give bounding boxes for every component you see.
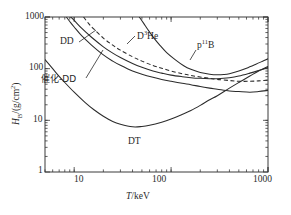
- x-tick-label-1000: 1000: [253, 175, 272, 185]
- leader-d3he: [127, 36, 135, 44]
- y-tick-label-100: 100: [29, 63, 43, 73]
- curve-label-dt: DT: [128, 137, 141, 147]
- x-tick-label-100: 100: [152, 175, 166, 185]
- curve-dt: [45, 60, 268, 127]
- leader-catalyzed-dd: [86, 50, 103, 78]
- curve-label-d3he: D3He: [137, 32, 158, 42]
- curve-label-dd: DD: [60, 37, 74, 47]
- y-tick-label-1: 1: [38, 166, 43, 176]
- y-tick-label-10: 10: [33, 115, 43, 125]
- y-axis-title: HB/(g/cm2): [12, 82, 24, 125]
- curve-dd: [71, 17, 268, 79]
- curve-label-catalyzed-dd: 催化-DD: [41, 75, 76, 84]
- curve-d3he: [84, 17, 268, 81]
- curve-label-p11b: p11B: [197, 41, 214, 51]
- leader-p11b: [190, 50, 196, 60]
- figure-container: 1000 100 10 1 10 100 1000 T/keV HB/(g/cm…: [0, 0, 291, 215]
- x-axis-title: T/keV: [126, 192, 150, 202]
- x-tick-label-10: 10: [74, 175, 84, 185]
- y-tick-label-1000: 1000: [25, 12, 44, 22]
